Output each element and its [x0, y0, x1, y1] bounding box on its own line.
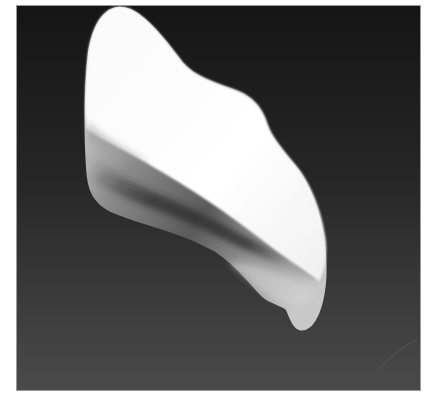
image-canvas: Rendered white curved shell-like 3D obje…: [0, 0, 440, 409]
image-frame: [16, 5, 421, 391]
image-alt-text: Rendered white curved shell-like 3D obje…: [0, 0, 1, 1]
shell-render: [17, 6, 420, 390]
